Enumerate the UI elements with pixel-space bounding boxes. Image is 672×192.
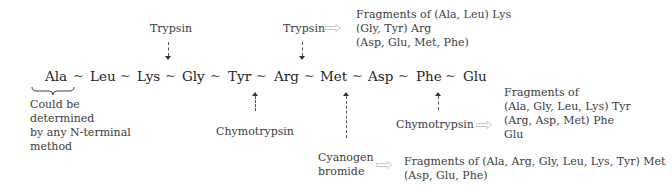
dashed-arrow-down-icon xyxy=(168,42,169,56)
hollow-arrow-right-icon xyxy=(376,161,392,169)
hollow-arrow-right-icon xyxy=(325,24,341,32)
arrow-head-icon xyxy=(299,56,305,60)
dashed-arrow-up-icon xyxy=(346,96,347,138)
arrow-head-icon xyxy=(165,56,171,60)
trypsin-fragments: Fragments of (Ala, Leu) Lys (Gly, Tyr) A… xyxy=(356,8,511,50)
fragment-line: Fragments of (Ala, Leu) Lys xyxy=(356,8,511,22)
trypsin-label: Trypsin xyxy=(283,22,325,36)
brace-icon xyxy=(31,86,75,96)
residue-ala: Ala xyxy=(45,68,67,84)
bond-symbol: ~ xyxy=(73,68,84,83)
residue-phe: Phe xyxy=(416,68,442,84)
fragment-line: (Asp, Glu, Met, Phe) xyxy=(356,36,511,50)
fragment-line: (Ala, Gly, Leu, Lys) Tyr xyxy=(504,100,631,114)
fragment-line: Fragments of (Ala, Arg, Gly, Leu, Lys, T… xyxy=(404,155,666,169)
residue-arg: Arg xyxy=(274,68,299,84)
residue-met: Met xyxy=(320,68,347,84)
note-line: method xyxy=(30,140,131,154)
agent-line: Cyanogen xyxy=(318,151,374,165)
bond-symbol: ~ xyxy=(210,68,221,83)
chymotrypsin-label: Chymotrypsin xyxy=(396,118,474,132)
note-line: determined xyxy=(30,112,131,126)
agent-line: bromide xyxy=(318,165,374,179)
chymotrypsin-fragments: Fragments of (Ala, Gly, Leu, Lys) Tyr (A… xyxy=(504,86,631,142)
fragment-line: Glu xyxy=(504,128,631,142)
trypsin-label: Trypsin xyxy=(150,22,192,36)
bond-symbol: ~ xyxy=(445,68,456,83)
fragment-line: (Arg, Asp, Met) Phe xyxy=(504,114,631,128)
cyanogen-bromide-label: Cyanogen bromide xyxy=(318,151,374,179)
dashed-arrow-down-icon xyxy=(302,42,303,56)
residue-asp: Asp xyxy=(368,68,393,84)
hollow-arrow-right-icon xyxy=(476,121,492,129)
residue-glu: Glu xyxy=(463,68,487,84)
residue-lys: Lys xyxy=(137,68,160,84)
n-terminal-note: Could be determined by any N-terminal me… xyxy=(30,98,131,154)
note-line: Could be xyxy=(30,98,131,112)
bond-symbol: ~ xyxy=(398,68,409,83)
cyanogen-bromide-fragments: Fragments of (Ala, Arg, Gly, Leu, Lys, T… xyxy=(404,155,666,183)
bond-symbol: ~ xyxy=(120,68,131,83)
fragment-line: Fragments of xyxy=(504,86,631,100)
note-line: by any N-terminal xyxy=(30,126,131,140)
dashed-arrow-up-icon xyxy=(438,96,439,110)
bond-symbol: ~ xyxy=(256,68,267,83)
residue-leu: Leu xyxy=(90,68,116,84)
residue-tyr: Tyr xyxy=(228,68,251,84)
chymotrypsin-label: Chymotrypsin xyxy=(216,125,294,139)
bond-symbol: ~ xyxy=(165,68,176,83)
dashed-arrow-up-icon xyxy=(255,96,256,111)
fragment-line: (Gly, Tyr) Arg xyxy=(356,22,511,36)
fragment-line: (Asp, Glu, Phe) xyxy=(404,169,666,183)
bond-symbol: ~ xyxy=(352,68,363,83)
bond-symbol: ~ xyxy=(304,68,315,83)
residue-gly: Gly xyxy=(182,68,205,84)
